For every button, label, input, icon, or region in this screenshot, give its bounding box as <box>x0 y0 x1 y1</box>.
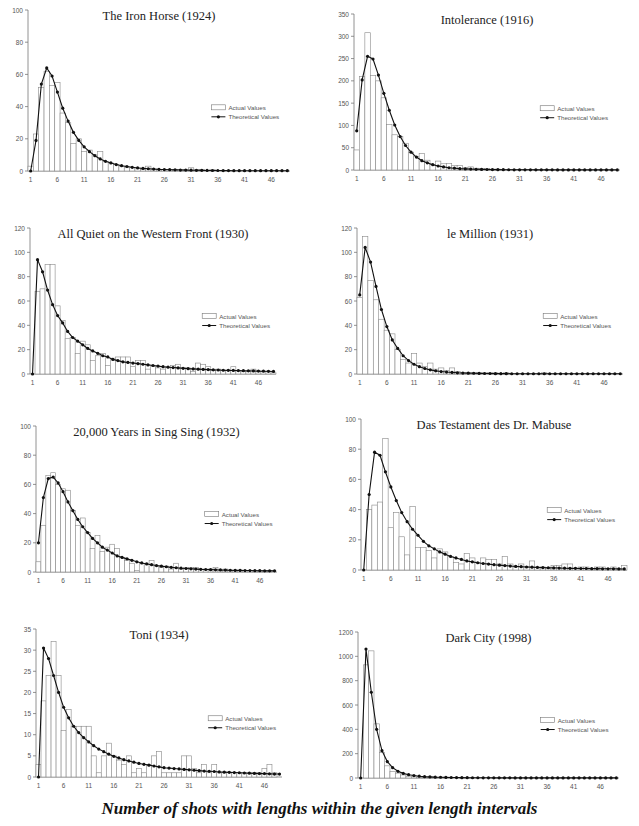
y-tick-label: 40 <box>24 510 32 517</box>
x-tick-label: 46 <box>255 379 263 386</box>
y-tick-label: 50 <box>342 144 350 151</box>
y-tick-label: 0 <box>352 567 356 574</box>
x-tick-label: 31 <box>516 175 524 182</box>
y-tick-label: 1000 <box>339 653 354 660</box>
y-tick-label: 10 <box>24 731 32 738</box>
y-tick-label: 350 <box>338 11 349 18</box>
legend-bar-swatch <box>543 314 557 319</box>
y-tick-label: 5 <box>27 752 31 759</box>
y-tick-label: 40 <box>16 103 24 110</box>
y-tick-label: 150 <box>338 100 349 107</box>
y-tick-label: 1200 <box>339 629 354 636</box>
y-tick-label: 0 <box>21 371 25 378</box>
legend: Actual ValuesTheoretical Values <box>211 104 279 121</box>
chart-title: Das Testament des Dr. Mabuse <box>417 418 572 432</box>
legend-actual-label: Actual Values <box>225 715 262 722</box>
x-tick-label: 11 <box>85 782 92 789</box>
x-tick-label: 46 <box>597 783 605 790</box>
legend-bar-swatch <box>205 512 219 517</box>
y-tick-label: 100 <box>12 7 23 14</box>
x-tick-label: 31 <box>187 176 195 183</box>
x-tick-label: 26 <box>158 577 166 584</box>
x-tick-label: 1 <box>358 379 362 386</box>
legend-theoretical-label: Theoretical Values <box>228 113 279 120</box>
x-tick-label: 11 <box>81 176 88 183</box>
chart-le-million: le Million (1931)02040608010012016111621… <box>333 222 633 392</box>
chart-svg: Intolerance (1916)0501001502002503003501… <box>330 8 630 188</box>
y-tick-label: 250 <box>338 55 349 62</box>
legend-actual-label: Actual Values <box>219 313 256 320</box>
x-tick-label: 46 <box>261 782 269 789</box>
chart-title: Intolerance (1916) <box>441 13 534 27</box>
x-tick-label: 21 <box>465 379 473 386</box>
chart-intolerance: Intolerance (1916)0501001502002503003501… <box>330 8 630 188</box>
x-tick-label: 36 <box>543 783 551 790</box>
legend-actual-label: Actual Values <box>557 105 594 112</box>
y-tick-label: 20 <box>18 346 26 353</box>
x-tick-label: 1 <box>31 379 35 386</box>
x-tick-label: 11 <box>79 379 86 386</box>
legend-theoretical-label: Theoretical Values <box>222 520 273 527</box>
x-tick-label: 1 <box>37 577 41 584</box>
y-tick-label: 40 <box>18 322 26 329</box>
legend: Actual ValuesTheoretical Values <box>205 511 273 528</box>
legend-bar-swatch <box>541 718 555 723</box>
x-tick-label: 1 <box>359 783 363 790</box>
actual-values-bars <box>28 71 215 171</box>
x-tick-label: 36 <box>550 575 558 582</box>
y-tick-label: 20 <box>24 689 32 696</box>
y-tick-label: 100 <box>20 423 31 430</box>
x-tick-label: 21 <box>133 577 141 584</box>
legend: Actual ValuesTheoretical Values <box>202 313 270 330</box>
x-tick-label: 41 <box>232 577 240 584</box>
chart-iron-horse: The Iron Horse (1924)0204060801001611162… <box>4 4 300 189</box>
x-tick-label: 31 <box>517 783 525 790</box>
legend-theoretical-label: Theoretical Values <box>564 516 615 523</box>
x-tick-label: 16 <box>438 379 446 386</box>
x-tick-label: 36 <box>543 175 551 182</box>
chart-svg: Dark City (1998)020040060080010001200161… <box>334 626 629 796</box>
y-tick-label: 20 <box>345 346 353 353</box>
y-tick-label: 60 <box>345 298 353 305</box>
x-tick-label: 11 <box>415 575 422 582</box>
actual-values-bars <box>357 237 547 374</box>
legend-actual-label: Actual Values <box>558 717 595 724</box>
y-tick-label: 20 <box>16 135 24 142</box>
y-tick-label: 0 <box>19 168 23 175</box>
x-tick-label: 26 <box>492 379 500 386</box>
y-tick-label: 30 <box>24 647 32 654</box>
x-tick-label: 26 <box>489 175 497 182</box>
x-tick-label: 1 <box>355 175 359 182</box>
y-tick-label: 60 <box>24 481 32 488</box>
x-tick-label: 46 <box>268 176 276 183</box>
x-tick-label: 6 <box>389 575 393 582</box>
chart-title: All Quiet on the Western Front (1930) <box>57 227 248 241</box>
x-tick-label: 16 <box>437 783 445 790</box>
chart-svg: le Million (1931)02040608010012016111621… <box>333 222 633 392</box>
y-tick-label: 80 <box>16 39 24 46</box>
x-tick-label: 21 <box>129 379 137 386</box>
y-tick-label: 35 <box>24 626 32 633</box>
x-tick-label: 16 <box>104 379 112 386</box>
x-tick-label: 41 <box>241 176 249 183</box>
x-tick-label: 46 <box>256 577 264 584</box>
chart-svg: All Quiet on the Western Front (1930)020… <box>6 222 286 392</box>
x-tick-label: 21 <box>135 782 143 789</box>
y-tick-label: 20 <box>349 536 357 543</box>
chart-sing-sing: 20,000 Years in Sing Sing (1932)02040608… <box>12 420 287 590</box>
legend: Actual ValuesTheoretical Values <box>208 715 276 732</box>
legend-bar-swatch <box>208 716 222 721</box>
y-tick-label: 300 <box>338 33 349 40</box>
y-tick-label: 80 <box>18 273 26 280</box>
chart-title: Dark City (1998) <box>445 631 531 645</box>
x-tick-label: 21 <box>469 575 477 582</box>
legend-actual-label: Actual Values <box>228 104 265 111</box>
x-tick-label: 36 <box>214 176 222 183</box>
x-tick-label: 6 <box>385 379 389 386</box>
chart-svg: The Iron Horse (1924)0204060801001611162… <box>4 4 300 189</box>
actual-values-bars <box>354 33 549 170</box>
legend-theoretical-label: Theoretical Values <box>560 322 611 329</box>
y-tick-label: 40 <box>345 322 353 329</box>
legend: Actual ValuesTheoretical Values <box>543 313 611 330</box>
y-tick-label: 60 <box>349 476 357 483</box>
